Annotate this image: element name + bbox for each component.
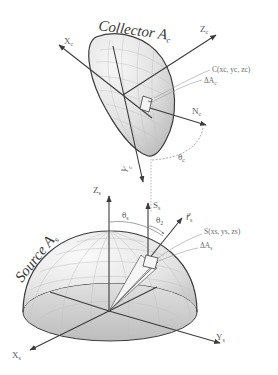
collector-surface xyxy=(89,34,175,156)
source-z-axis-label: Zs xyxy=(93,185,102,196)
source-point-label: S(xs, ys, zs) xyxy=(204,227,241,236)
source-base xyxy=(23,283,197,341)
diagram-canvas: Collector Ac Xc Zc Yc C(xc, yc, zc) ΔAc … xyxy=(0,0,278,375)
collector-x-axis-label: Xc xyxy=(64,36,74,47)
source-x-axis-label: Xs xyxy=(12,350,22,361)
source-angle-theta-2-label: θ2 xyxy=(156,215,163,226)
source-angle-theta-s-label: θs xyxy=(122,210,129,221)
collector-normal-label: Nc xyxy=(192,106,202,117)
collector-point-label: C(xc, yc, zc) xyxy=(212,65,251,74)
collector-surface-group xyxy=(89,34,175,156)
source-normal-label: Ss xyxy=(153,200,161,211)
collector-y-axis-label: Yc xyxy=(119,162,133,176)
collector-angle-label: θc xyxy=(178,152,185,163)
source-area-element xyxy=(143,255,158,269)
radiation-view-factor-diagram: Collector Ac Xc Zc Yc C(xc, yc, zc) ΔAc … xyxy=(0,0,278,375)
source-area-label: ΔAs xyxy=(200,241,212,251)
source-angle-arc-theta-2 xyxy=(148,226,164,234)
collector-area-label: ΔAc xyxy=(204,76,217,86)
source-y-axis-label: Ys xyxy=(216,332,226,343)
source-ray-label: r⃗s xyxy=(186,212,193,223)
collector-z-axis-label: Zc xyxy=(200,24,209,35)
